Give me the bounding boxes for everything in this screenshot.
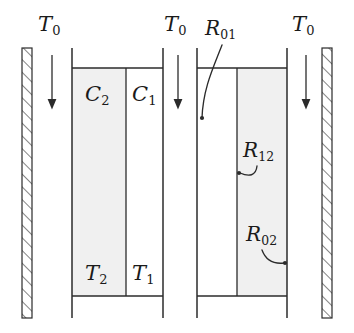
hatched-wall-left (22, 48, 32, 318)
label-T2-sub: 2 (99, 272, 107, 287)
label-R01-base: R (205, 16, 220, 40)
label-R02: R02 (246, 224, 277, 244)
label-T1-sub: 1 (146, 272, 154, 287)
leader-R01-dot (200, 116, 204, 120)
label-R12-base: R (243, 138, 258, 162)
label-R01: R01 (205, 18, 236, 38)
label-R12-sub: 12 (258, 149, 274, 164)
label-C1: C1 (132, 84, 157, 105)
label-C1-sub: 1 (148, 93, 156, 108)
label-T0-left-base: T (38, 12, 52, 36)
cell-R-right-fill (237, 68, 287, 296)
hatched-wall-right (322, 48, 332, 318)
label-T2: T2 (85, 263, 107, 284)
label-T0-middle: T0 (164, 14, 186, 35)
label-T0-right-sub: 0 (306, 23, 314, 38)
label-T0-left-sub: 0 (52, 23, 60, 38)
label-C2-sub: 2 (101, 93, 109, 108)
label-R12: R12 (243, 140, 274, 160)
heat-flow-arrow-right-head (302, 99, 311, 110)
label-R01-sub: 01 (220, 27, 236, 42)
resistance-container (197, 48, 287, 318)
label-R02-base: R (246, 222, 261, 246)
label-T0-right-base: T (292, 12, 306, 36)
label-C1-base: C (132, 82, 148, 106)
label-T0-middle-base: T (164, 12, 178, 36)
label-T2-base: T (85, 261, 99, 285)
heat-flow-arrow-left-head (48, 99, 57, 110)
label-C2: C2 (85, 84, 110, 105)
heat-flow-arrow-left (48, 55, 57, 110)
label-C2-base: C (85, 82, 101, 106)
figure-canvas: T0 T0 T0 C2 C1 T2 T1 R01 R12 R02 (0, 0, 354, 333)
label-T0-right: T0 (292, 14, 314, 35)
heat-flow-arrow-middle (174, 55, 183, 110)
label-T0-left: T0 (38, 14, 60, 35)
hatched-wall-right-rect (322, 48, 332, 318)
heat-flow-arrow-middle-head (174, 99, 183, 110)
leader-R02-dot (283, 261, 287, 265)
label-T1: T1 (132, 263, 154, 284)
schematic-vector-layer (0, 0, 354, 333)
label-T0-middle-sub: 0 (178, 23, 186, 38)
label-T1-base: T (132, 261, 146, 285)
heat-flow-arrow-right (302, 55, 311, 110)
hatched-wall-left-rect (22, 48, 32, 318)
label-R02-sub: 02 (261, 233, 277, 248)
leader-R12-dot (237, 171, 241, 175)
